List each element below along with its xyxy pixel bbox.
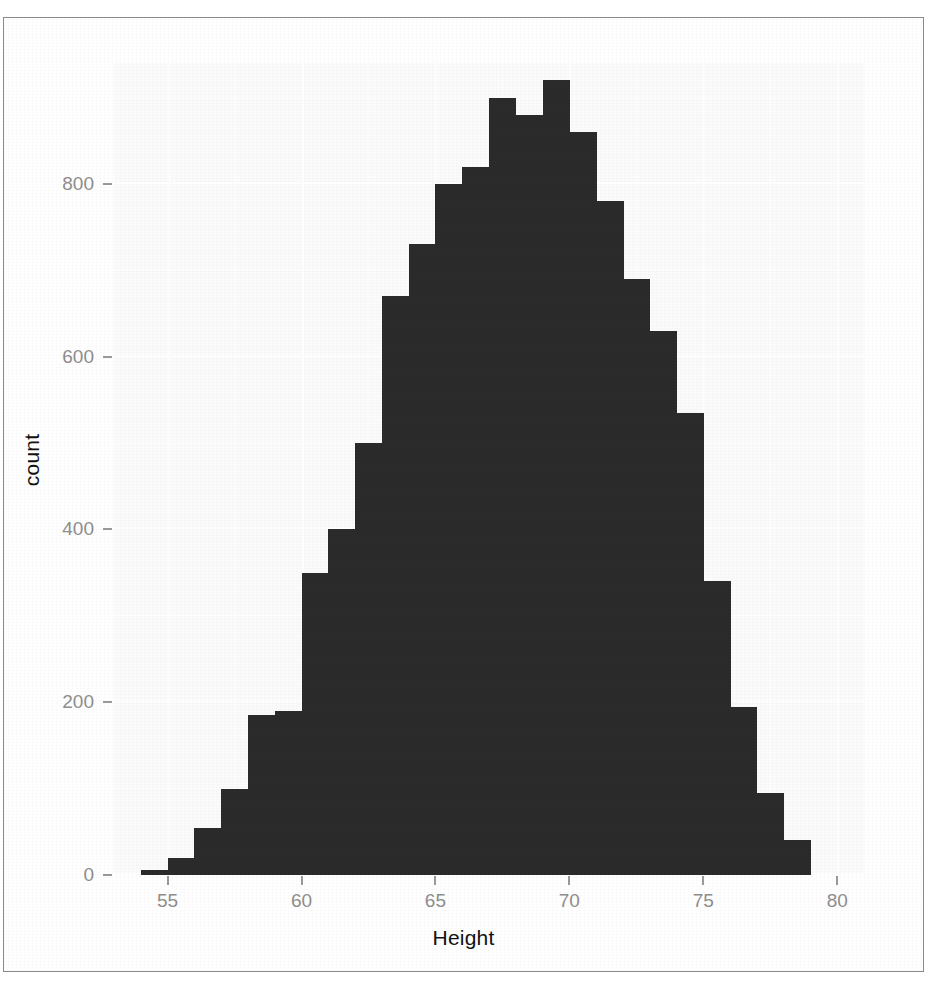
- histogram-bars: [114, 63, 864, 875]
- histogram-bar: [516, 115, 543, 875]
- x-tick-mark: [568, 876, 570, 885]
- y-axis-title: count: [20, 400, 44, 520]
- x-tick-mark: [702, 876, 704, 885]
- histogram-bar: [248, 715, 275, 875]
- histogram-bar: [194, 828, 221, 876]
- histogram-figure: count 0200400600800 556065707580 Height: [4, 18, 923, 971]
- histogram-bar: [489, 98, 516, 875]
- histogram-bar: [435, 184, 462, 875]
- histogram-bar: [382, 296, 409, 875]
- x-tick-label: 60: [267, 890, 337, 912]
- histogram-bar: [703, 581, 730, 875]
- histogram-bar: [650, 331, 677, 875]
- histogram-bar: [302, 573, 329, 875]
- histogram-bar: [784, 840, 811, 875]
- plot-panel: [114, 63, 864, 875]
- histogram-bar: [355, 443, 382, 875]
- y-tick-label: 600: [16, 346, 94, 368]
- histogram-bar: [677, 413, 704, 875]
- x-tick-label: 70: [534, 890, 604, 912]
- histogram-bar: [757, 793, 784, 875]
- x-tick-mark: [434, 876, 436, 885]
- y-tick-mark: [103, 183, 112, 185]
- histogram-bar: [569, 132, 596, 875]
- y-tick-label: 800: [16, 173, 94, 195]
- y-tick-label: 0: [16, 864, 94, 886]
- histogram-bar: [543, 80, 570, 875]
- histogram-bar: [221, 789, 248, 875]
- x-tick-mark: [167, 876, 169, 885]
- y-tick-mark: [103, 528, 112, 530]
- y-tick-label: 400: [16, 518, 94, 540]
- histogram-bar: [141, 870, 168, 875]
- histogram-bar: [328, 529, 355, 875]
- x-tick-label: 65: [400, 890, 470, 912]
- scanned-page-frame: count 0200400600800 556065707580 Height: [3, 17, 924, 972]
- x-tick-label: 55: [133, 890, 203, 912]
- histogram-bar: [730, 707, 757, 875]
- y-tick-label: 200: [16, 691, 94, 713]
- x-tick-mark: [301, 876, 303, 885]
- x-tick-mark: [836, 876, 838, 885]
- x-axis-title: Height: [4, 926, 923, 950]
- histogram-bar: [168, 858, 195, 875]
- y-tick-mark: [103, 356, 112, 358]
- y-tick-mark: [103, 701, 112, 703]
- histogram-bar: [596, 201, 623, 875]
- y-tick-mark: [103, 874, 112, 876]
- histogram-bar: [623, 279, 650, 875]
- histogram-bar: [409, 244, 436, 875]
- x-tick-label: 80: [802, 890, 872, 912]
- x-tick-label: 75: [668, 890, 738, 912]
- histogram-bar: [462, 167, 489, 875]
- histogram-bar: [275, 711, 302, 875]
